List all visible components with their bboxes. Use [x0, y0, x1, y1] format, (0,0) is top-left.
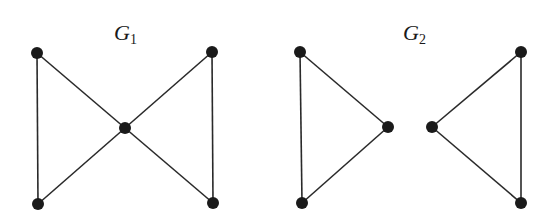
graph-g2: G2: [294, 20, 527, 209]
edge: [432, 52, 521, 127]
vertex: [296, 197, 308, 209]
edge: [38, 128, 125, 204]
edge: [37, 53, 125, 128]
edge: [302, 127, 388, 203]
vertex: [207, 197, 219, 209]
edge: [212, 52, 213, 203]
vertex: [31, 47, 43, 59]
graph-label: G1: [114, 20, 137, 47]
edge: [125, 128, 213, 203]
vertex: [515, 197, 527, 209]
edge: [125, 52, 212, 128]
edge: [432, 127, 521, 203]
vertex: [515, 46, 527, 58]
edge: [300, 52, 388, 127]
graph-diagram: G1G2: [0, 0, 553, 217]
edge: [300, 52, 302, 203]
graph-g1: G1: [31, 20, 219, 210]
graph-label: G2: [403, 20, 426, 47]
vertex: [119, 122, 131, 134]
vertex: [32, 198, 44, 210]
vertex: [426, 121, 438, 133]
vertex: [206, 46, 218, 58]
edge: [37, 53, 38, 204]
vertex: [382, 121, 394, 133]
vertex: [294, 46, 306, 58]
